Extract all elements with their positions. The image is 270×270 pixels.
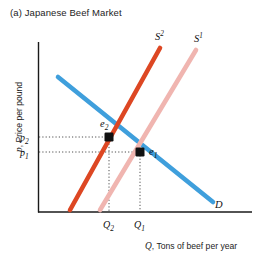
y-axis-title: p, Price per pound (14, 82, 24, 153)
figure-panel: (a) Japanese Beef Market S2 S1 D e2 e1 p… (0, 0, 270, 270)
x-tick-label-q1: Q1 (134, 219, 145, 233)
chart-svg: S2 S1 D e2 e1 p2 p1 Q2 Q1 p, Price per p… (0, 0, 270, 270)
equilibrium-point-e1 (136, 148, 145, 157)
x-axis-title: Q, Tons of beef per year (145, 241, 237, 251)
demand-curve-D-label: D (214, 199, 223, 210)
equilibrium-label-e2: e2 (100, 118, 109, 132)
x-tick-label-q2: Q2 (103, 219, 114, 233)
supply-curve-S1-label: S1 (194, 32, 203, 44)
equilibrium-label-e1: e1 (149, 146, 157, 160)
supply-curve-S2-label: S2 (155, 30, 164, 42)
equilibrium-point-e2 (105, 133, 114, 142)
